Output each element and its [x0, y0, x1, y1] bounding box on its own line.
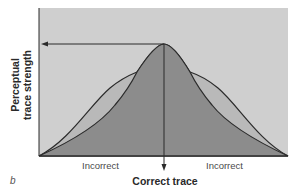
arrow-down-icon	[162, 164, 167, 171]
y-axis-label-line2: trace strength	[21, 50, 33, 120]
y-axis-label: Perceptual trace strength	[6, 30, 36, 140]
diagram-plot	[0, 0, 295, 191]
right-incorrect-label: Incorrect	[206, 160, 243, 171]
left-incorrect-label: Incorrect	[82, 160, 119, 171]
x-axis-label: Correct trace	[0, 175, 295, 187]
perceptual-trace-diagram: Perceptual trace strength Incorrect Inco…	[0, 0, 295, 191]
y-axis-label-line1: Perceptual	[9, 50, 21, 120]
panel-label: b	[10, 175, 16, 186]
